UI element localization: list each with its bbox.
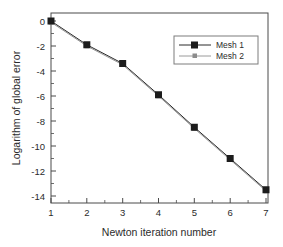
x-tick-label: 2 <box>84 207 89 218</box>
legend-label-mesh-2: Mesh 2 <box>216 51 244 61</box>
y-tick-label: -10 <box>31 141 45 152</box>
data-point-marker <box>83 41 90 48</box>
data-point-marker <box>155 91 162 98</box>
x-tick-label: 7 <box>263 207 268 218</box>
x-tick-label: 1 <box>48 207 53 218</box>
x-axis-title: Newton iteration number <box>102 226 217 238</box>
y-tick-labels: 0 -2 -4 -6 -8 -10 -12 -14 <box>31 16 45 202</box>
chart-canvas: 0 -2 -4 -6 -8 -10 -12 -14 <box>0 0 283 247</box>
y-tick-label: 0 <box>40 16 45 27</box>
y-tick-label: -2 <box>37 41 45 52</box>
data-point-marker <box>227 155 234 162</box>
data-point-marker <box>263 186 270 193</box>
data-point-marker <box>119 60 126 67</box>
x-tick-label: 3 <box>120 207 125 218</box>
y-tick-label: -14 <box>31 191 45 202</box>
y-axis-title: Logarithm of global error <box>10 50 22 165</box>
y-tick-label: -8 <box>37 116 45 127</box>
legend-marker-mesh-2 <box>193 54 198 59</box>
chart-legend: Mesh 1 Mesh 2 <box>174 36 258 64</box>
y-tick-label: -4 <box>37 66 45 77</box>
chart-figure: 0 -2 -4 -6 -8 -10 -12 -14 <box>0 0 283 247</box>
x-tick-label: 6 <box>228 207 233 218</box>
x-tick-labels: 1 2 3 4 5 6 7 <box>48 207 268 218</box>
y-tick-label: -12 <box>31 166 45 177</box>
y-tick-label: -6 <box>37 91 45 102</box>
legend-marker-mesh-1 <box>191 42 198 49</box>
x-tick-label: 4 <box>156 207 161 218</box>
x-tick-label: 5 <box>192 207 197 218</box>
legend-label-mesh-1: Mesh 1 <box>216 40 244 50</box>
x-axis-major-ticks <box>51 198 266 203</box>
data-point-marker <box>191 124 198 131</box>
data-point-marker <box>48 18 55 25</box>
